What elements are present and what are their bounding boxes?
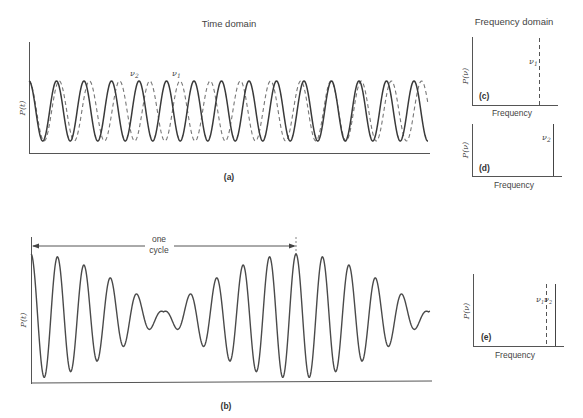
- panel-e-line-labels: ν1ν2: [536, 295, 552, 305]
- panel-c-line-label: ν1: [529, 57, 538, 67]
- one-cycle-label-line1: one: [152, 234, 166, 244]
- panel-b-x-axis: [32, 381, 433, 383]
- panel-e-ylabel: P(ν): [462, 303, 471, 321]
- panel-d-ylabel: P(ν): [461, 142, 470, 160]
- panel-d-line-label: ν2: [542, 133, 551, 143]
- panel-a: P(t) ν2 ν1 (a): [18, 42, 430, 182]
- panel-a-ylabel: P(t): [18, 101, 27, 117]
- time-domain-title: Time domain: [202, 18, 257, 29]
- panel-b-ylabel: P(t): [19, 313, 28, 329]
- panel-b: P(t) one cycle (b): [19, 234, 432, 411]
- nu2-label: ν2: [130, 69, 139, 79]
- panel-c-ylabel: P(ν): [461, 68, 470, 86]
- panel-e-label: (e): [481, 332, 492, 342]
- nu2-wave-solid: [29, 81, 428, 141]
- panel-c-label: (c): [479, 91, 490, 101]
- panel-d-xlabel: Frequency: [494, 180, 535, 190]
- panel-c-xlabel: Frequency: [492, 108, 533, 118]
- figure: Time domain Frequency domain P(t) ν2 ν1 …: [0, 0, 583, 418]
- panel-d-label: (d): [479, 163, 490, 173]
- panel-d: ν2 P(ν) (d) Frequency: [461, 124, 562, 190]
- panel-e-xlabel: Frequency: [495, 350, 536, 360]
- panel-b-label: (b): [221, 401, 232, 411]
- panel-a-label: (a): [224, 172, 235, 182]
- panel-c: ν1 P(ν) (c) Frequency: [461, 37, 558, 118]
- beat-waveform: [31, 254, 430, 377]
- nu1-label: ν1: [172, 69, 181, 79]
- panel-e: ν1ν2 P(ν) (e) Frequency: [462, 274, 564, 360]
- one-cycle-label-line2: cycle: [149, 245, 169, 255]
- arrowhead-left-icon: [32, 244, 39, 249]
- frequency-domain-title: Frequency domain: [475, 16, 554, 27]
- arrowhead-right-icon: [289, 244, 296, 249]
